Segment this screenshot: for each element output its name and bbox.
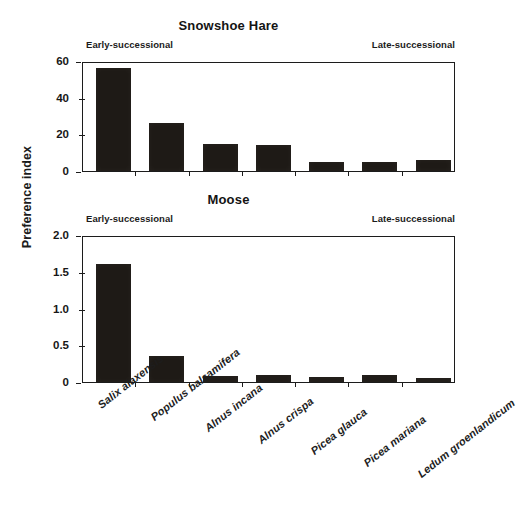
early-successional-label-top: Early-successional [86,39,173,50]
bar [96,68,131,171]
x-axis-tick [348,383,349,387]
bar [203,144,238,172]
y-axis-tick [79,273,85,274]
y-axis-tick-label: 0.5 [24,340,69,352]
y-axis-tick [76,383,81,384]
y-axis-tick [79,99,85,100]
x-axis-tick [402,383,403,387]
bar [309,377,344,382]
x-axis-tick [295,172,296,176]
y-axis-tick-label: 40 [24,93,69,105]
y-axis-tick [79,346,85,347]
late-successional-label-top: Late-successional [372,39,455,50]
x-axis-tick [135,172,136,176]
y-axis-tick-label: 0 [24,377,69,389]
x-axis-tick [189,172,190,176]
x-axis-tick [348,172,349,176]
panel-title-moose: Moose [42,192,415,207]
x-axis-tick [242,172,243,176]
bar-group-snowshoe-hare [83,63,454,171]
x-axis-category-label: Ledum groenlandicum [415,396,517,479]
x-axis-category-label: Alnus crispa [255,394,315,445]
bar [309,162,344,171]
x-axis-tick [402,172,403,176]
y-axis-tick [76,172,81,173]
early-successional-label-bottom: Early-successional [86,213,173,224]
bar-group-moose [83,237,454,382]
bar [96,264,131,382]
bar [416,378,451,382]
y-axis-tick-label: 0 [24,166,69,178]
y-axis-tick [79,310,85,311]
x-axis-category-labels: Salix alaxensisPopulus balsamiferaAlnus … [0,388,483,513]
bar [256,375,291,382]
x-axis-category-label: Picea mariana [362,412,429,468]
bar [362,162,397,171]
y-axis-tick-label: 1.0 [24,304,69,316]
x-axis-category-label: Picea glauca [308,405,369,456]
bar [256,145,291,171]
bar [416,160,451,171]
late-successional-label-bottom: Late-successional [372,213,455,224]
bar [362,375,397,382]
y-axis-tick-label: 2.0 [24,230,69,242]
bar [149,123,184,171]
panel-title-snowshoe-hare: Snowshoe Hare [42,18,415,33]
panel-moose: Moose Early-successional Late-succession… [82,192,455,384]
y-axis-tick-label: 1.5 [24,267,69,279]
x-axis-category-label: Alnus incana [202,381,264,433]
plot-area-moose [82,236,455,383]
x-axis-tick [242,383,243,387]
y-axis-tick [79,135,85,136]
plot-area-snowshoe-hare [82,62,455,172]
y-axis-tick [76,236,81,237]
y-axis-tick-label: 60 [24,56,69,68]
panel-snowshoe-hare: Snowshoe Hare Early-successional Late-su… [82,18,455,173]
x-axis-tick [295,383,296,387]
y-axis-tick [76,62,81,63]
y-axis-tick-label: 20 [24,129,69,141]
